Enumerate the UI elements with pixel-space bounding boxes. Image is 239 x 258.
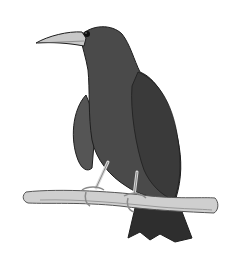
crow-illustration xyxy=(0,0,239,258)
branch xyxy=(23,190,218,213)
illustration-canvas xyxy=(0,0,239,258)
crow-eye xyxy=(84,31,90,37)
crow-beak xyxy=(36,32,86,46)
